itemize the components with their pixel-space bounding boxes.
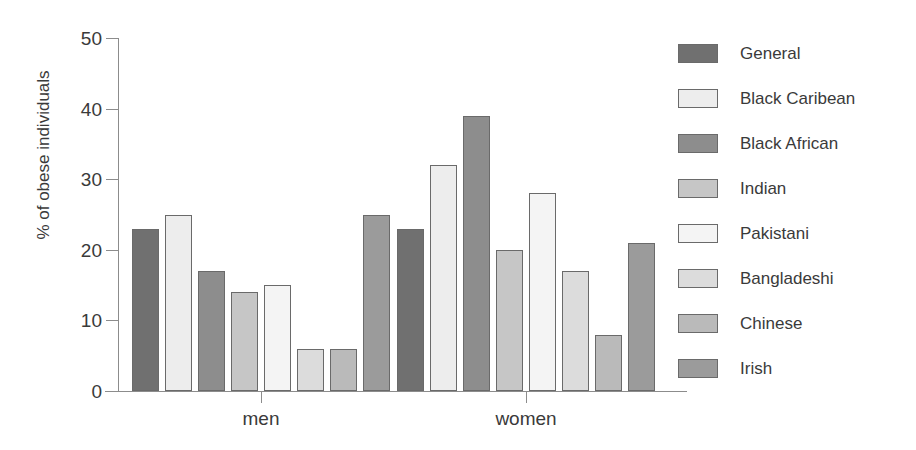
y-axis-tick-label-wrap: 10 bbox=[54, 320, 102, 321]
y-axis-tick-label-wrap: 40 bbox=[54, 109, 102, 110]
legend-swatch-icon bbox=[678, 269, 718, 288]
bar bbox=[363, 215, 390, 392]
legend-swatch-icon bbox=[678, 314, 718, 333]
y-axis-tick bbox=[106, 179, 118, 180]
legend-item-label: Indian bbox=[740, 180, 786, 197]
bar bbox=[330, 349, 357, 391]
y-axis-tick-label-wrap: 50 bbox=[54, 38, 102, 39]
bar bbox=[165, 215, 192, 392]
bar bbox=[628, 243, 655, 391]
y-axis-tick-label: 50 bbox=[58, 29, 102, 48]
bar bbox=[297, 349, 324, 391]
y-axis-tick-label: 20 bbox=[58, 241, 102, 260]
bar bbox=[198, 271, 225, 391]
x-axis-tick bbox=[526, 392, 527, 403]
legend-swatch-icon bbox=[678, 89, 718, 108]
y-axis-tick-label: 40 bbox=[58, 100, 102, 119]
legend-item-chinese[interactable]: Chinese bbox=[678, 308, 802, 338]
legend-item-black-caribean[interactable]: Black Caribean bbox=[678, 83, 855, 113]
bar bbox=[463, 116, 490, 391]
y-axis-tick-label-wrap: 30 bbox=[54, 179, 102, 180]
bar bbox=[595, 335, 622, 391]
x-axis-group-label-men: men bbox=[191, 408, 331, 430]
legend-item-general[interactable]: General bbox=[678, 38, 800, 68]
bar bbox=[231, 292, 258, 391]
y-axis-tick-label: 10 bbox=[58, 311, 102, 330]
legend-item-pakistani[interactable]: Pakistani bbox=[678, 218, 809, 248]
y-axis-tick bbox=[106, 38, 118, 39]
legend-item-black-african[interactable]: Black African bbox=[678, 128, 838, 158]
bar bbox=[562, 271, 589, 391]
legend-swatch-icon bbox=[678, 224, 718, 243]
bar bbox=[132, 229, 159, 391]
bar bbox=[529, 193, 556, 391]
legend-swatch-icon bbox=[678, 44, 718, 63]
legend-item-label: Bangladeshi bbox=[740, 270, 834, 287]
bar bbox=[264, 285, 291, 391]
y-axis-tick-label-wrap: 0 bbox=[54, 391, 102, 392]
legend-swatch-icon bbox=[678, 134, 718, 153]
legend-item-indian[interactable]: Indian bbox=[678, 173, 786, 203]
y-axis-tick bbox=[106, 250, 118, 251]
legend-item-label: Pakistani bbox=[740, 225, 809, 242]
legend-item-label: Black African bbox=[740, 135, 838, 152]
bar bbox=[397, 229, 424, 391]
legend-item-label: Chinese bbox=[740, 315, 802, 332]
y-axis-tick-label-wrap: 20 bbox=[54, 250, 102, 251]
y-axis-tick bbox=[106, 320, 118, 321]
y-axis-title: % of obese individuals bbox=[34, 5, 54, 305]
x-axis-tick bbox=[261, 392, 262, 403]
y-axis-tick-label: 0 bbox=[58, 382, 102, 401]
bar-chart-figure: 01020304050 % of obese individuals menwo… bbox=[0, 0, 916, 450]
bar bbox=[496, 250, 523, 391]
legend-item-label: Irish bbox=[740, 360, 772, 377]
y-axis-tick-label: 30 bbox=[58, 170, 102, 189]
legend-item-label: General bbox=[740, 45, 800, 62]
bar bbox=[430, 165, 457, 391]
x-axis-group-label-women: women bbox=[456, 408, 596, 430]
y-axis-tick bbox=[106, 109, 118, 110]
legend-item-irish[interactable]: Irish bbox=[678, 353, 772, 383]
legend-swatch-icon bbox=[678, 359, 718, 378]
x-axis-line bbox=[105, 391, 687, 392]
legend-item-bangladeshi[interactable]: Bangladeshi bbox=[678, 263, 834, 293]
plot-area bbox=[118, 38, 663, 391]
legend-swatch-icon bbox=[678, 179, 718, 198]
legend-item-label: Black Caribean bbox=[740, 90, 855, 107]
